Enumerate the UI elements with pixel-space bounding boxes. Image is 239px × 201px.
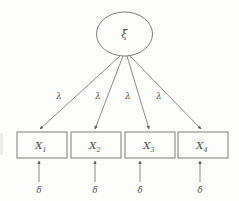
loading-label-2: λ bbox=[94, 91, 100, 101]
error-label-4: δ bbox=[197, 185, 202, 195]
loading-labels-group: λ λ λ λ bbox=[55, 91, 161, 101]
error-labels-group: δ δ δ δ bbox=[36, 185, 202, 195]
loading-label-3: λ bbox=[124, 91, 130, 101]
indicator-label-4-subscript: 4 bbox=[202, 146, 207, 154]
loading-label-4: λ bbox=[155, 91, 161, 101]
error-label-2: δ bbox=[92, 185, 97, 195]
indicator-label-3-subscript: 3 bbox=[150, 146, 154, 154]
figure-canvas: ξ λ λ λ λ X1 X2 X bbox=[0, 0, 239, 201]
loading-label-1: λ bbox=[55, 91, 61, 101]
error-label-1: δ bbox=[36, 185, 41, 195]
error-paths-group bbox=[39, 161, 200, 182]
error-label-3: δ bbox=[137, 185, 142, 195]
path-diagram: ξ λ λ λ λ X1 X2 X bbox=[0, 0, 239, 201]
latent-variable-group: ξ bbox=[97, 12, 153, 56]
indicator-label-1-subscript: 1 bbox=[42, 146, 46, 154]
loading-path-1 bbox=[40, 56, 120, 129]
loading-paths-group bbox=[40, 56, 201, 129]
indicator-label-2-subscript: 2 bbox=[95, 146, 100, 154]
loading-path-4 bbox=[130, 56, 201, 129]
